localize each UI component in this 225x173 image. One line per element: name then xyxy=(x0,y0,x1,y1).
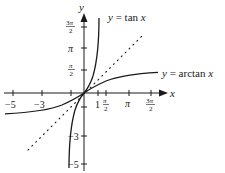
y-tick-label-neg5: −5 xyxy=(68,159,79,170)
svg-text:2: 2 xyxy=(149,105,153,113)
x-tick-label-pi-over-2: π 2 xyxy=(103,97,109,113)
function-graph: y x y = tan x y = arctan x −5 −3 1 π 2 π… xyxy=(0,0,225,173)
y-tick-label-3pi-over-2: 3π 2 xyxy=(66,19,75,35)
x-tick-label-3pi-over-2: 3π 2 xyxy=(146,97,155,113)
svg-text:3π: 3π xyxy=(146,97,154,105)
svg-text:π: π xyxy=(69,62,73,70)
y-tick-label-pi-over-2: π 2 xyxy=(68,62,75,78)
y-tick-label-pi: π xyxy=(68,43,74,54)
x-axis-label: x xyxy=(169,87,175,99)
tan-curve-label: y = tan x xyxy=(107,11,146,23)
x-axis-arrow-icon xyxy=(159,90,168,97)
svg-text:2: 2 xyxy=(69,27,73,35)
x-tick-label-neg3: −3 xyxy=(34,99,45,110)
svg-text:π: π xyxy=(103,97,107,105)
svg-text:3π: 3π xyxy=(66,19,74,27)
x-tick-label-1: 1 xyxy=(95,99,100,110)
svg-text:2: 2 xyxy=(104,105,108,113)
y-axis-label: y xyxy=(78,1,84,13)
x-tick-label-pi: π xyxy=(125,98,131,109)
y-axis-arrow-icon xyxy=(81,13,88,22)
arctan-curve-label: y = arctan x xyxy=(161,67,213,79)
y-tick-label-neg3: −3 xyxy=(68,131,79,142)
svg-text:2: 2 xyxy=(70,70,74,78)
x-tick-label-neg5: −5 xyxy=(5,99,16,110)
